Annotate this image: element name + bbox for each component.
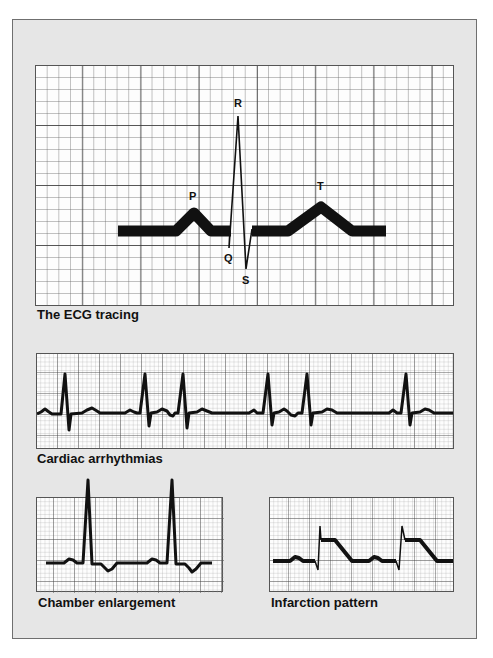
infarction-pattern-grid xyxy=(269,497,454,592)
s-wave-label: S xyxy=(242,274,249,286)
chamber-enlargement-caption: Chamber enlargement xyxy=(38,595,175,610)
ecg-tracing-svg xyxy=(36,66,454,306)
cardiac-arrhythmias-svg xyxy=(37,354,454,449)
chamber-enlargement-svg xyxy=(37,498,224,593)
r-wave-label: R xyxy=(234,97,242,109)
ecg-tracing-caption: The ECG tracing xyxy=(37,307,139,322)
infarction-pattern-svg xyxy=(270,498,454,592)
t-wave-label: T xyxy=(317,180,324,192)
infarction-pattern-caption: Infarction pattern xyxy=(271,595,378,610)
q-wave-label: Q xyxy=(224,252,233,264)
p-wave-label: P xyxy=(189,190,196,202)
cardiac-arrhythmias-grid xyxy=(36,353,454,449)
cardiac-arrhythmias-caption: Cardiac arrhythmias xyxy=(37,451,163,466)
ecg-tracing-grid: P Q R S T xyxy=(35,65,454,306)
chamber-enlargement-grid xyxy=(36,497,223,592)
